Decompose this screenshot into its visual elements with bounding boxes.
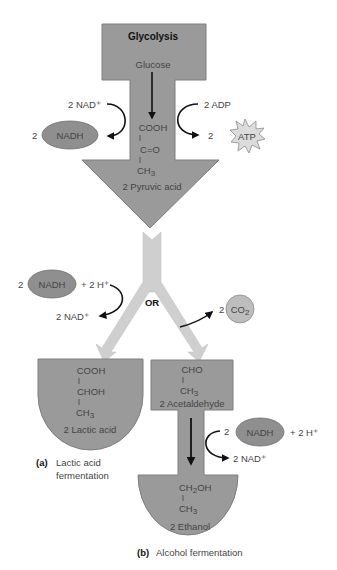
branch-nadh-coef: 2: [18, 279, 23, 290]
alcohol-nadh-label: NADH: [247, 427, 274, 438]
caption-b-text: Alcohol fermentation: [156, 547, 243, 558]
glucose-label: Glucose: [136, 59, 171, 70]
glycolysis-nad-input: 2 NAD⁺: [68, 99, 101, 110]
fermentation-diagram: Glycolysis Glucose COOH C=O CH3 2 Pyruvi…: [0, 0, 337, 570]
caption-b-letter: (b): [137, 547, 149, 558]
glycolysis-title: Glycolysis: [128, 31, 178, 42]
glycolysis-adp-input: 2 ADP: [204, 99, 231, 110]
lactic-formula-line1: COOH: [77, 365, 106, 376]
co2-coef: 2: [219, 304, 224, 315]
pyruvate-formula-line1: COOH: [139, 122, 168, 133]
branch-nad-output: 2 NAD⁺: [56, 311, 89, 322]
pyruvic-acid-label: 2 Pyruvic acid: [122, 181, 181, 192]
ethanol-label: 2 Ethanol: [170, 521, 210, 532]
caption-a-line2: fermentation: [56, 470, 109, 481]
lactic-acid-label: 2 Lactic acid: [64, 424, 117, 435]
glycolysis-atp-coef: 2: [208, 130, 213, 141]
pyruvate-formula-line2: C=O: [140, 144, 160, 155]
branch-nadh-label: NADH: [39, 279, 66, 290]
alcohol-nad-output: 2 NAD⁺: [233, 453, 266, 464]
nad-to-nadh-arrow-icon: [107, 104, 125, 136]
branch-plus-h: + 2 H⁺: [81, 279, 109, 290]
caption-a-line1: Lactic acid: [56, 457, 101, 468]
acetaldehyde-formula-line1: CHO: [181, 364, 202, 375]
alcohol-plus-h: + 2 H⁺: [290, 427, 318, 438]
glycolysis-nadh-label: NADH: [57, 130, 84, 141]
lactic-formula-line2: CHOH: [77, 386, 105, 397]
glycolysis-atp-label: ATP: [238, 131, 256, 142]
alcohol-nadh-coef: 2: [224, 426, 229, 437]
acetaldehyde-label: 2 Acetaldehyde: [160, 398, 225, 409]
adp-to-atp-arrow-icon: [178, 104, 198, 135]
caption-a-letter: (a): [36, 457, 48, 468]
or-label: OR: [145, 297, 159, 308]
glycolysis-nadh-coef: 2: [32, 130, 37, 141]
